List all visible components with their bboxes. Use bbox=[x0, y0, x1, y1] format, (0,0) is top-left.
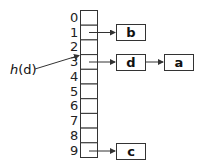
index-label: 9 bbox=[70, 143, 78, 158]
index-label: 5 bbox=[70, 84, 78, 99]
index-label: 7 bbox=[70, 113, 78, 128]
table-cell-6 bbox=[81, 99, 98, 114]
table-cell-9 bbox=[81, 143, 98, 158]
chain-slot-3: d a bbox=[89, 55, 194, 71]
index-label: 2 bbox=[70, 39, 78, 54]
table-cell-5 bbox=[81, 84, 98, 99]
index-label: 1 bbox=[70, 25, 78, 40]
node-label: b bbox=[126, 25, 135, 40]
hash-function-annotation: h(d) bbox=[10, 56, 79, 78]
index-label: 8 bbox=[70, 128, 78, 143]
index-label: 0 bbox=[70, 10, 78, 25]
node-label: c bbox=[127, 144, 135, 159]
table-cell-2 bbox=[81, 40, 98, 55]
table-cell-0 bbox=[81, 11, 98, 26]
hash-arg: (d) bbox=[18, 62, 36, 77]
index-label: 6 bbox=[70, 98, 78, 113]
node-label: d bbox=[126, 55, 135, 70]
table-cell-8 bbox=[81, 128, 98, 143]
hash-func: h bbox=[10, 62, 18, 77]
hash-table-diagram: 0 1 2 3 4 5 6 7 8 9 b d a c h(d) bbox=[0, 0, 205, 167]
table-indices: 0 1 2 3 4 5 6 7 8 9 bbox=[70, 10, 78, 158]
table-cell-7 bbox=[81, 113, 98, 128]
table-cell-4 bbox=[81, 69, 98, 84]
node-label: a bbox=[175, 55, 184, 70]
hash-label: h(d) bbox=[10, 62, 37, 77]
index-label: 4 bbox=[70, 69, 78, 84]
